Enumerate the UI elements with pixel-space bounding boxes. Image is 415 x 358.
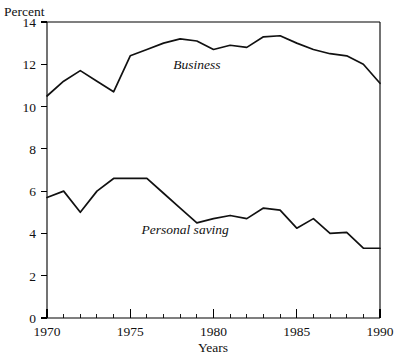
series-annotation-personal-saving: Personal saving [141,222,230,237]
y-tick-label-2: 2 [29,269,36,284]
series-line-personal-saving [47,178,380,248]
series-annotation-business: Business [173,57,220,72]
savings-rate-line-chart: Percent 02468101214 19701975198019851990… [0,0,415,358]
x-tick-label-1970: 1970 [34,324,61,339]
y-tick-label-10: 10 [23,100,37,115]
x-tick-label-1985: 1985 [283,324,310,339]
y-tick-label-12: 12 [23,57,37,72]
y-tick-label-14: 14 [23,15,37,30]
y-axis-tick-labels: 02468101214 [23,15,37,326]
series-annotations: BusinessPersonal saving [141,57,230,238]
x-tick-label-1975: 1975 [117,324,144,339]
y-tick-label-8: 8 [29,142,36,157]
x-axis-tick-labels: 19701975198019851990 [34,324,394,339]
y-tick-label-6: 6 [29,184,36,199]
x-tick-label-1980: 1980 [200,324,227,339]
x-tick-label-1990: 1990 [367,324,394,339]
chart-canvas: Percent 02468101214 19701975198019851990… [0,0,415,358]
y-tick-label-4: 4 [29,226,36,241]
y-axis-ticks [41,22,47,318]
x-axis-title: Years [198,340,228,355]
